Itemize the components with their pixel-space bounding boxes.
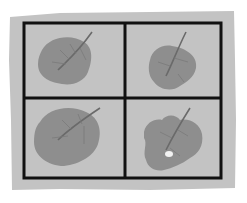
leaf-grid-illustration <box>0 0 247 203</box>
paper-card <box>9 11 236 190</box>
leaf-hole <box>165 151 173 157</box>
